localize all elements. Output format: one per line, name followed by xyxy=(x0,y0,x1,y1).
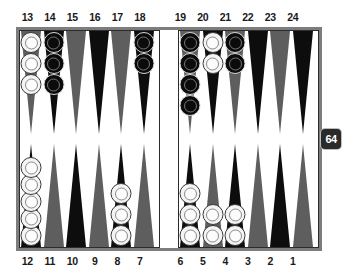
point-number-17: 17 xyxy=(106,11,129,23)
board-right-half xyxy=(178,30,319,248)
point-9[interactable] xyxy=(88,139,111,247)
point-4[interactable] xyxy=(224,139,247,247)
point-triangle-11 xyxy=(44,144,64,247)
point-triangle-10 xyxy=(66,144,86,247)
point-number-22: 22 xyxy=(237,11,260,23)
point-18[interactable] xyxy=(133,31,156,139)
checker-black[interactable] xyxy=(133,32,154,53)
checker-black[interactable] xyxy=(180,32,201,53)
point-23[interactable] xyxy=(269,31,292,139)
checker-white[interactable] xyxy=(180,225,201,246)
point-16[interactable] xyxy=(88,31,111,139)
checker-white[interactable] xyxy=(202,53,223,74)
point-triangle-17 xyxy=(111,31,131,134)
point-number-1: 1 xyxy=(282,255,305,267)
doubling-cube[interactable]: 64 xyxy=(321,129,341,149)
point-5[interactable] xyxy=(202,139,225,247)
point-number-9: 9 xyxy=(84,255,107,267)
point-11[interactable] xyxy=(43,139,66,247)
point-triangle-15 xyxy=(66,31,86,134)
point-1[interactable] xyxy=(292,139,315,247)
point-triangle-1 xyxy=(293,144,313,247)
checker-stack-4[interactable] xyxy=(225,204,246,246)
checker-white[interactable] xyxy=(21,32,42,53)
point-22[interactable] xyxy=(247,31,270,139)
checker-white[interactable] xyxy=(111,183,132,204)
point-15[interactable] xyxy=(65,31,88,139)
checker-stack-5[interactable] xyxy=(202,204,223,246)
point-number-13: 13 xyxy=(16,11,39,23)
checker-black[interactable] xyxy=(180,53,201,74)
point-number-21: 21 xyxy=(214,11,237,23)
quadrant-bottom-right xyxy=(179,139,318,247)
checker-white[interactable] xyxy=(225,204,246,225)
point-14[interactable] xyxy=(43,31,66,139)
point-triangle-16 xyxy=(89,31,109,134)
point-10[interactable] xyxy=(65,139,88,247)
checker-white[interactable] xyxy=(21,53,42,74)
point-3[interactable] xyxy=(247,139,270,247)
board-inner xyxy=(19,30,319,248)
checker-stack-14[interactable] xyxy=(43,32,64,95)
checker-black[interactable] xyxy=(43,32,64,53)
point-number-19: 19 xyxy=(169,11,192,23)
checker-stack-20[interactable] xyxy=(202,32,223,74)
point-7[interactable] xyxy=(133,139,156,247)
point-number-5: 5 xyxy=(192,255,215,267)
checker-white[interactable] xyxy=(225,225,246,246)
point-number-16: 16 xyxy=(84,11,107,23)
checker-black[interactable] xyxy=(225,53,246,74)
checker-white[interactable] xyxy=(21,74,42,95)
point-13[interactable] xyxy=(20,31,43,139)
point-number-2: 2 xyxy=(259,255,282,267)
point-6[interactable] xyxy=(179,139,202,247)
checker-black[interactable] xyxy=(43,53,64,74)
checker-white[interactable] xyxy=(180,204,201,225)
point-2[interactable] xyxy=(269,139,292,247)
point-24[interactable] xyxy=(292,31,315,139)
checker-black[interactable] xyxy=(180,95,201,116)
checker-white[interactable] xyxy=(202,204,223,225)
point-8[interactable] xyxy=(110,139,133,247)
point-number-3: 3 xyxy=(237,255,260,267)
point-numbers-top: 131415161718 192021222324 xyxy=(16,10,304,24)
checker-white[interactable] xyxy=(202,225,223,246)
point-19[interactable] xyxy=(179,31,202,139)
checker-white[interactable] xyxy=(111,225,132,246)
point-number-10: 10 xyxy=(61,255,84,267)
point-number-6: 6 xyxy=(169,255,192,267)
point-triangle-7 xyxy=(134,144,154,247)
point-numbers-top-left: 131415161718 xyxy=(16,11,151,23)
point-20[interactable] xyxy=(202,31,225,139)
point-21[interactable] xyxy=(224,31,247,139)
point-number-15: 15 xyxy=(61,11,84,23)
quadrant-top-left xyxy=(20,31,159,139)
checker-stack-6[interactable] xyxy=(180,183,201,246)
checker-stack-12[interactable] xyxy=(21,157,42,246)
checker-black[interactable] xyxy=(225,32,246,53)
checker-stack-19[interactable] xyxy=(180,32,201,116)
point-number-4: 4 xyxy=(214,255,237,267)
point-12[interactable] xyxy=(20,139,43,247)
point-number-20: 20 xyxy=(192,11,215,23)
checker-black[interactable] xyxy=(180,74,201,95)
point-triangle-24 xyxy=(293,31,313,134)
point-number-8: 8 xyxy=(106,255,129,267)
center-bar[interactable] xyxy=(160,30,178,248)
checker-stack-8[interactable] xyxy=(111,183,132,246)
checker-white[interactable] xyxy=(202,32,223,53)
point-number-18: 18 xyxy=(129,11,152,23)
checker-stack-18[interactable] xyxy=(133,32,154,74)
board-left-half xyxy=(19,30,160,248)
checker-black[interactable] xyxy=(133,53,154,74)
point-numbers-bottom: 121110987 654321 xyxy=(16,254,304,268)
point-17[interactable] xyxy=(110,31,133,139)
checker-stack-21[interactable] xyxy=(225,32,246,74)
checker-white[interactable] xyxy=(21,157,42,178)
checker-stack-13[interactable] xyxy=(21,32,42,95)
checker-white[interactable] xyxy=(111,204,132,225)
point-numbers-bottom-left: 121110987 xyxy=(16,255,151,267)
checker-black[interactable] xyxy=(43,74,64,95)
point-triangle-23 xyxy=(270,31,290,134)
checker-white[interactable] xyxy=(180,183,201,204)
